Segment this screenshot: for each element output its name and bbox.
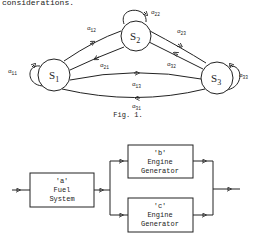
transition-label-31: α31	[132, 103, 141, 111]
transition-label-23: α23	[177, 28, 186, 36]
block-b-line2: Generator	[141, 167, 179, 175]
block-diagram	[12, 145, 240, 232]
arrow-23-icon	[178, 44, 181, 46]
transition-label-13: α13	[132, 81, 141, 89]
arrow-22-icon	[144, 12, 146, 14]
block-a-line2: System	[49, 195, 74, 203]
arrow-21-icon	[96, 57, 99, 59]
transition-label-11: α11	[8, 68, 17, 76]
block-a-line1: Fuel	[54, 186, 71, 194]
edge-12	[64, 31, 121, 61]
transition-label-12: α12	[87, 25, 96, 33]
transition-label-21: α21	[100, 62, 109, 70]
top-text-fragment: considerations.	[2, 0, 74, 7]
block-c-line2: Generator	[141, 220, 179, 228]
arrow-32-icon	[176, 54, 179, 56]
transition-label-33: α33	[239, 72, 248, 80]
edge-31	[62, 89, 205, 98]
block-c-line1: Engine	[147, 211, 172, 219]
block-c-tag: 'c'	[154, 202, 167, 210]
block-b-line1: Engine	[147, 158, 172, 166]
transition-label-32: α32	[167, 61, 176, 69]
block-b-tag: 'b'	[154, 149, 167, 157]
block-a-tag: 'a'	[56, 177, 69, 185]
figure-caption: Fig. 1.	[113, 111, 142, 119]
transition-label-22: α22	[151, 9, 160, 17]
edge-13	[70, 73, 201, 80]
arrow-33-icon	[231, 65, 233, 67]
figure-canvas: considerations. S1 S2 S3 α11 α1	[0, 0, 258, 240]
